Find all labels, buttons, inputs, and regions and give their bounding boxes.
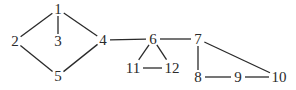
node-11-label: 11 bbox=[126, 60, 140, 76]
node-9-label: 9 bbox=[234, 69, 242, 85]
node-2-label: 2 bbox=[11, 33, 19, 49]
edge-1-4 bbox=[64, 13, 97, 36]
edge-1-2 bbox=[21, 13, 53, 37]
edge-4-6 bbox=[110, 39, 146, 40]
edge-6-12 bbox=[157, 45, 167, 60]
edge-6-11 bbox=[139, 45, 149, 60]
node-1-label: 1 bbox=[54, 1, 62, 17]
node-3-label: 3 bbox=[54, 33, 62, 49]
node-12-label: 12 bbox=[165, 60, 180, 76]
graph-svg: 123456789101112 bbox=[0, 0, 296, 90]
node-10-label: 10 bbox=[272, 69, 287, 85]
node-5-label: 5 bbox=[54, 68, 62, 84]
node-6-label: 6 bbox=[149, 31, 157, 47]
edge-5-4 bbox=[63, 44, 97, 71]
node-7-label: 7 bbox=[194, 31, 202, 47]
node-8-label: 8 bbox=[194, 69, 202, 85]
graph-diagram: 123456789101112 bbox=[0, 0, 296, 90]
edge-2-5 bbox=[20, 45, 52, 71]
node-4-label: 4 bbox=[99, 32, 107, 48]
